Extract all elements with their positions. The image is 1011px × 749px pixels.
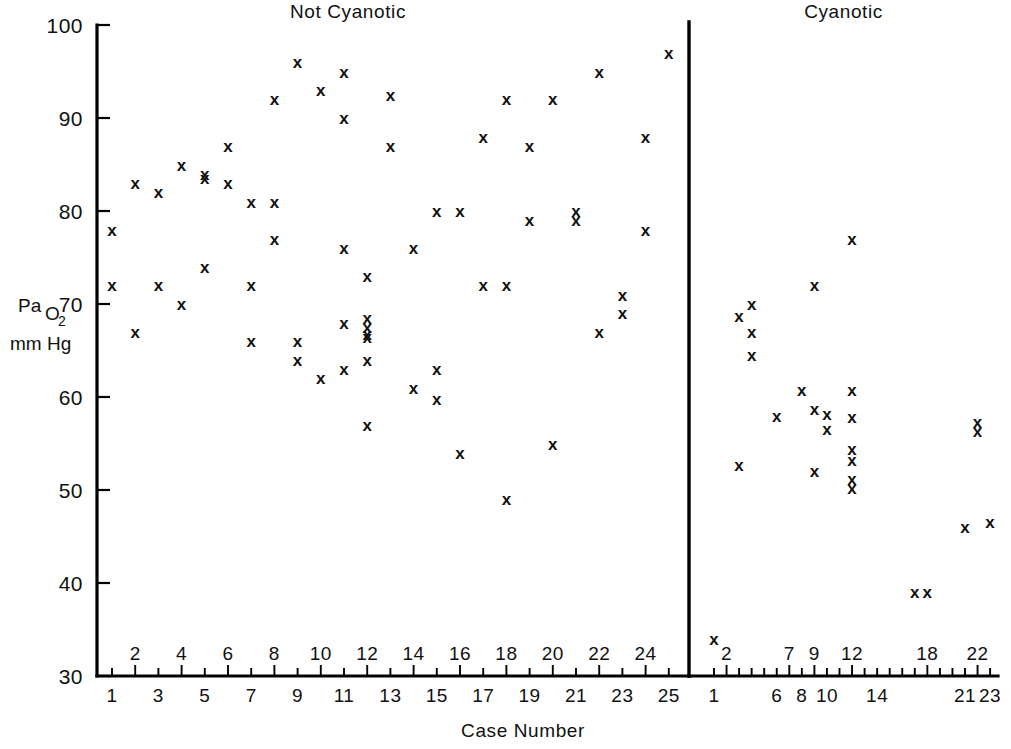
data-point-marker: x <box>293 351 303 370</box>
x-tick-label-below: 8 <box>796 685 807 706</box>
data-point-marker: x <box>432 360 442 379</box>
y-tick-label: 90 <box>59 107 83 130</box>
data-point-marker: x <box>548 435 558 454</box>
data-point-marker: x <box>339 314 349 333</box>
x-tick-label-below: 7 <box>246 685 257 706</box>
data-points: xxxxxxxxxxxxxxxxxxxxxxxxxxxxxxxxxxxxxxxx… <box>107 44 995 649</box>
data-point-marker: x <box>847 451 857 470</box>
data-point-marker: x <box>293 53 303 72</box>
x-tick-label-below: 11 <box>334 685 355 706</box>
y-axis-label-pa: Pa <box>18 295 42 316</box>
x-tick-label-below: 19 <box>519 685 541 706</box>
data-point-marker: x <box>107 221 117 240</box>
data-point-marker: x <box>177 156 187 175</box>
data-point-marker: x <box>641 128 651 147</box>
data-point-marker: x <box>107 276 117 295</box>
x-axis-caption: Case Number <box>461 720 585 741</box>
data-point-marker: x <box>502 90 512 109</box>
data-point-marker: x <box>571 211 581 230</box>
x-tick-label-below: 15 <box>426 685 448 706</box>
x-tick-label-below: 25 <box>658 685 680 706</box>
data-point-marker: x <box>339 109 349 128</box>
data-point-marker: x <box>847 408 857 427</box>
data-point-marker: x <box>339 63 349 82</box>
data-point-marker: x <box>339 239 349 258</box>
data-point-marker: x <box>822 420 832 439</box>
data-point-marker: x <box>734 456 744 475</box>
x-tick-label-below: 23 <box>979 685 1001 706</box>
data-point-marker: x <box>386 137 396 156</box>
data-point-marker: x <box>316 369 326 388</box>
x-axis <box>97 665 998 676</box>
x-tick-label-above: 16 <box>449 643 471 664</box>
x-tick-label-above: 8 <box>269 643 280 664</box>
data-point-marker: x <box>270 193 280 212</box>
data-point-marker: x <box>618 304 628 323</box>
data-point-marker: x <box>154 183 164 202</box>
x-tick-label-below: 1 <box>106 685 117 706</box>
data-point-marker: x <box>386 86 396 105</box>
data-point-marker: x <box>130 323 140 342</box>
data-point-marker: x <box>362 416 372 435</box>
x-tick-label-above: 10 <box>310 643 332 664</box>
x-tick-label-above: 14 <box>403 643 425 664</box>
x-tick-label-above: 18 <box>495 643 517 664</box>
data-point-marker: x <box>797 381 807 400</box>
data-point-marker: x <box>810 400 820 419</box>
data-point-marker: x <box>478 128 488 147</box>
data-point-marker: x <box>270 230 280 249</box>
data-point-marker: x <box>594 63 604 82</box>
data-point-marker: x <box>923 583 933 602</box>
data-point-marker: x <box>973 422 983 441</box>
data-point-marker: x <box>810 462 820 481</box>
data-point-marker: x <box>130 174 140 193</box>
x-tick-label-above: 24 <box>635 643 657 664</box>
x-tick-label-below: 21 <box>954 685 976 706</box>
y-tick-label: 80 <box>59 200 83 223</box>
data-point-marker: x <box>478 276 488 295</box>
data-point-marker: x <box>810 276 820 295</box>
data-point-marker: x <box>734 307 744 326</box>
data-point-marker: x <box>747 323 757 342</box>
data-point-marker: x <box>772 407 782 426</box>
data-point-marker: x <box>270 90 280 109</box>
data-point-marker: x <box>293 332 303 351</box>
x-tick-label-above: 6 <box>222 643 233 664</box>
data-point-marker: x <box>455 202 465 221</box>
y-tick-label: 50 <box>59 479 83 502</box>
x-tick-label-below: 21 <box>565 685 587 706</box>
data-point-marker: x <box>339 360 349 379</box>
data-point-marker: x <box>847 479 857 498</box>
x-tick-label-above: 2 <box>130 643 141 664</box>
x-tick-label-below: 17 <box>472 685 494 706</box>
x-tick-label-below: 3 <box>153 685 164 706</box>
x-tick-label-above: 22 <box>966 643 988 664</box>
y-tick-label: 40 <box>59 572 83 595</box>
data-point-marker: x <box>847 230 857 249</box>
data-point-marker: x <box>502 490 512 509</box>
y-axis-label-units: mm Hg <box>10 333 71 354</box>
x-tick-label-below: 1 <box>708 685 719 706</box>
y-tick-label: 60 <box>59 386 83 409</box>
data-point-marker: x <box>664 44 674 63</box>
x-tick-label-below: 23 <box>611 685 633 706</box>
data-point-marker: x <box>200 169 210 188</box>
data-point-marker: x <box>432 390 442 409</box>
data-point-marker: x <box>246 193 256 212</box>
data-point-marker: x <box>548 90 558 109</box>
data-point-marker: x <box>525 137 535 156</box>
data-point-marker: x <box>154 276 164 295</box>
data-point-marker: x <box>960 518 970 537</box>
x-tick-label-above: 9 <box>809 643 820 664</box>
chart-figure: 10090807060504030 2468101214161820222413… <box>0 0 1011 749</box>
data-point-marker: x <box>709 630 719 649</box>
data-point-marker: x <box>455 444 465 463</box>
data-point-marker: x <box>641 221 651 240</box>
x-tick-label-above: 2 <box>721 643 732 664</box>
data-point-marker: x <box>316 81 326 100</box>
x-tick-label-above: 4 <box>176 643 187 664</box>
y-tick-label: 30 <box>59 665 83 688</box>
x-tick-label-below: 13 <box>379 685 401 706</box>
y-axis-label-o-subscript: 2 <box>58 313 66 329</box>
y-tick-label: 100 <box>46 14 83 37</box>
